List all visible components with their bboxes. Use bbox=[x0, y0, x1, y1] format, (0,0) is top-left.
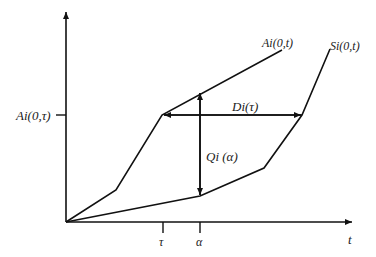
x-tick-alpha-label: α bbox=[196, 236, 202, 248]
diagram-canvas bbox=[0, 0, 376, 257]
arrival-curve-label: Ai(0,t) bbox=[262, 37, 293, 49]
backlog-label: Qi (α) bbox=[206, 150, 238, 163]
delay-label: Di(τ) bbox=[232, 100, 258, 113]
x-tick-tau-label: τ bbox=[159, 236, 163, 248]
arrival-curve bbox=[66, 50, 282, 222]
service-curve-label: Si(0,t) bbox=[330, 40, 360, 52]
y-tick-label: Ai(0,τ) bbox=[16, 109, 51, 122]
x-axis-label: t bbox=[348, 233, 352, 246]
